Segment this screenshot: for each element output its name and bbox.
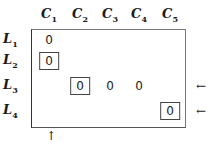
column-header: C5: [162, 6, 178, 24]
boxed-zero-cell: 0: [39, 52, 59, 70]
zero-cell: 0: [106, 79, 114, 93]
left-arrow-icon: ←: [196, 104, 206, 118]
zero-cell: 0: [45, 33, 53, 47]
column-header: C4: [131, 6, 147, 24]
column-header: C3: [102, 6, 118, 24]
row-header: L2: [3, 52, 18, 70]
row-header: L1: [3, 31, 18, 49]
column-header: C1: [41, 6, 57, 24]
row-header: L4: [3, 102, 18, 120]
zero-cell: 0: [135, 79, 143, 93]
column-header: C2: [72, 6, 88, 24]
left-arrow-icon: ←: [196, 79, 206, 93]
boxed-zero-cell: 0: [160, 102, 180, 120]
up-arrow-icon: ↑: [46, 129, 56, 143]
row-header: L3: [3, 77, 18, 95]
boxed-zero-cell: 0: [70, 77, 90, 95]
